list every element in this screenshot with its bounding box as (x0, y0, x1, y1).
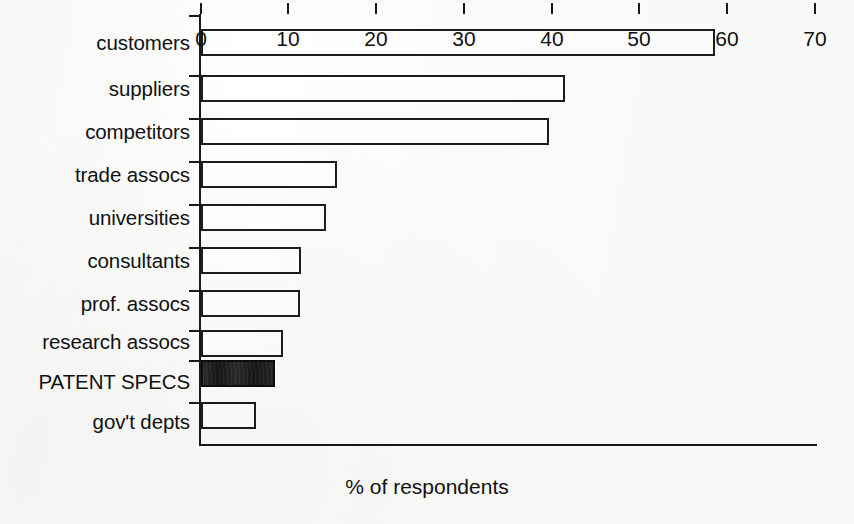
plot-area: 0 10 20 30 40 50 60 70 (201, 14, 815, 444)
category-label: prof. assocs (81, 294, 190, 315)
x-axis-tick-label: 50 (627, 28, 650, 49)
x-axis-tick-label: 20 (364, 28, 387, 49)
y-axis-tick (189, 204, 200, 206)
bar-chart: customers suppliers competitors trade as… (0, 0, 854, 524)
x-axis-tick-label: 70 (803, 28, 826, 49)
x-axis-tick (726, 3, 728, 14)
x-axis-tick-label: 40 (540, 28, 563, 49)
x-axis-tick-label: 0 (195, 28, 207, 49)
bar-consultants (201, 247, 301, 274)
bar-prof-assocs (201, 290, 300, 317)
y-axis-tick (189, 15, 200, 17)
x-axis-title: % of respondents (0, 476, 854, 497)
x-axis-tick-label: 60 (715, 28, 738, 49)
bar-research-assocs (201, 330, 283, 357)
x-axis-tick (638, 3, 640, 14)
category-label: universities (89, 208, 190, 229)
bar-suppliers (201, 75, 565, 102)
x-axis-tick-label: 30 (452, 28, 475, 49)
y-axis-tick (189, 402, 200, 404)
x-axis-tick (814, 3, 816, 14)
category-label: suppliers (109, 79, 190, 100)
category-label: customers (96, 33, 190, 54)
category-label: consultants (87, 251, 190, 272)
y-axis-tick (189, 330, 200, 332)
category-label: PATENT SPECS (39, 372, 190, 393)
y-axis-tick (189, 75, 200, 77)
x-axis-tick (200, 3, 202, 14)
category-label: trade assocs (75, 165, 190, 186)
x-axis-tick (463, 3, 465, 14)
y-axis-tick (189, 360, 200, 362)
bar-patent-specs (201, 360, 275, 387)
bar-trade-assocs (201, 161, 337, 188)
category-label: gov't depts (93, 412, 190, 433)
y-axis-tick (189, 290, 200, 292)
x-axis-tick (551, 3, 553, 14)
bar-universities (201, 204, 326, 231)
x-axis-line (199, 444, 817, 446)
category-label: research assocs (42, 332, 190, 353)
category-label: competitors (85, 122, 190, 143)
x-axis-tick (287, 3, 289, 14)
x-axis-tick-label: 10 (276, 28, 299, 49)
y-axis-tick (189, 161, 200, 163)
bar-govt-depts (201, 402, 256, 429)
x-axis-tick (375, 3, 377, 14)
bar-competitors (201, 118, 549, 145)
y-axis-tick (189, 118, 200, 120)
y-axis-tick (189, 247, 200, 249)
